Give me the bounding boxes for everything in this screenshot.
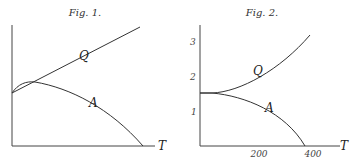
fig-2-x-tick-200: 200 [249, 149, 267, 159]
fig-2: Fig. 2. T 3 2 1 200 400 Q A [189, 7, 349, 159]
fig-1-title: Fig. 1. [68, 7, 101, 18]
fig-1-x-label: T [158, 139, 167, 153]
fig-2-y-tick-2: 2 [189, 72, 196, 82]
fig-2-y-tick-1: 1 [191, 107, 197, 117]
fig-1-curve-q [12, 27, 140, 93]
fig-1: Fig. 1. T Q A [12, 7, 167, 153]
fig-2-y-tick-3: 3 [190, 37, 196, 47]
fig-2-axes [200, 25, 340, 146]
fig-2-label-q: Q [253, 64, 263, 78]
fig-2-x-label: T [340, 139, 349, 153]
figure-canvas: Fig. 1. T Q A Fig. 2. T 3 2 1 200 400 Q … [0, 0, 357, 162]
fig-2-label-a: A [264, 101, 274, 115]
fig-2-curve-a [200, 93, 305, 146]
fig-1-label-q: Q [79, 49, 89, 63]
fig-2-x-tick-400: 400 [303, 149, 321, 159]
fig-1-curve-a [12, 82, 143, 146]
fig-1-axes [12, 25, 155, 146]
fig-1-label-a: A [88, 96, 98, 110]
fig-2-title: Fig. 2. [245, 7, 278, 18]
